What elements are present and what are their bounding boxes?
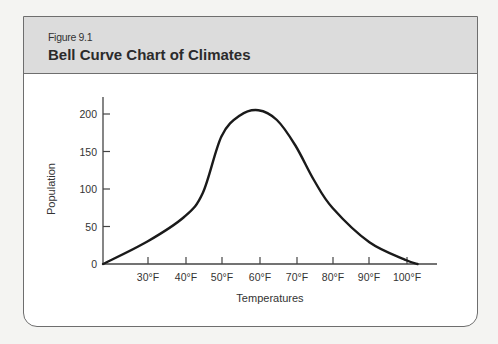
y-tick-label: 100	[79, 183, 97, 195]
x-tick-label: 100°F	[393, 271, 421, 283]
y-tick-label: 0	[91, 258, 97, 270]
x-axis-ticks: 30°F40°F50°F60°F70°F80°F90°F100°F	[137, 257, 421, 283]
y-tick-label: 50	[85, 221, 97, 233]
x-tick-label: 70°F	[286, 271, 308, 283]
x-tick-label: 60°F	[249, 271, 271, 283]
y-axis-title: Population	[45, 163, 57, 215]
y-axis-ticks: 050100150200	[79, 108, 110, 270]
population-curve	[103, 110, 418, 264]
x-tick-label: 50°F	[211, 271, 233, 283]
y-tick-label: 200	[79, 108, 97, 120]
bell-curve-chart: 050100150200 30°F40°F50°F60°F70°F80°F90°…	[0, 0, 498, 344]
x-tick-label: 80°F	[322, 271, 344, 283]
x-tick-label: 40°F	[175, 271, 197, 283]
x-axis-title: Temperatures	[236, 292, 304, 304]
y-tick-label: 150	[79, 146, 97, 158]
x-tick-label: 30°F	[137, 271, 159, 283]
x-tick-label: 90°F	[358, 271, 380, 283]
